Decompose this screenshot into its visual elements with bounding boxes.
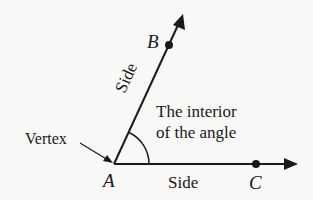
vertex-pointer [80, 143, 108, 160]
label-side-ac: Side [168, 174, 198, 191]
point-c [252, 160, 260, 168]
label-point-c: C [249, 173, 262, 192]
point-b [165, 41, 173, 49]
vertex-pointer-arrowhead-icon [103, 155, 113, 163]
arrowhead-c-icon [284, 158, 298, 170]
angle-arc [129, 132, 149, 164]
arrowhead-b-icon [173, 14, 185, 30]
label-interior-line2: of the angle [156, 124, 236, 141]
label-interior-line1: The interior [156, 103, 237, 120]
angle-diagram: B A C Vertex Side Side The interior of t… [0, 0, 313, 200]
label-point-a: A [103, 171, 115, 190]
label-point-b: B [147, 32, 159, 51]
angle-figure [0, 0, 313, 200]
label-vertex: Vertex [25, 131, 67, 147]
